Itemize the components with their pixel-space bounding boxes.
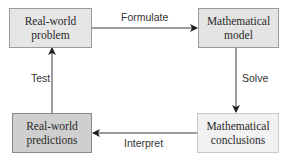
- node-label-line: conclusions: [206, 133, 269, 147]
- node-label-line: Mathematical: [206, 119, 269, 133]
- modeling-cycle-diagram: Real-world problem Mathematical model Ma…: [0, 0, 291, 163]
- node-mathematical-conclusions: Mathematical conclusions: [197, 113, 279, 153]
- edge-label-test: Test: [31, 72, 50, 84]
- node-real-world-problem: Real-world problem: [9, 8, 92, 48]
- edge-label-solve: Solve: [242, 72, 268, 84]
- edge-label-interpret: Interpret: [124, 137, 163, 149]
- node-label-line: predictions: [26, 133, 78, 147]
- node-real-world-predictions: Real-world predictions: [12, 113, 92, 153]
- node-label-line: problem: [25, 28, 77, 42]
- node-label-line: Mathematical: [207, 14, 270, 28]
- edge-label-formulate: Formulate: [121, 11, 168, 23]
- node-label-line: Real-world: [25, 14, 77, 28]
- node-label-line: model: [207, 28, 270, 42]
- node-label-line: Real-world: [26, 119, 78, 133]
- node-mathematical-model: Mathematical model: [198, 8, 279, 48]
